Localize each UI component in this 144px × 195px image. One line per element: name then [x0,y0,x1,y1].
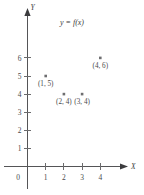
x-axis-arrow-icon [120,163,128,169]
data-point-label: (4, 6) [93,62,109,70]
y-axis-tick-label: 6 [18,54,22,63]
data-point-label: (3, 4) [74,98,90,106]
plot-canvas: Y X 0 123456 1234 (1, 5)(2, 4)(3, 4)(4, … [0,0,144,195]
y-axis-tick-label: 3 [18,108,22,117]
x-axis-tick-label: 4 [98,173,102,182]
coordinate-plane-figure: Y X 0 123456 1234 (1, 5)(2, 4)(3, 4)(4, … [0,0,144,195]
y-axis-tick-label: 4 [18,90,22,99]
origin-label: 0 [16,173,20,182]
x-axis-label: X [130,162,136,171]
data-point-marker [99,57,102,60]
data-point-marker [81,93,84,96]
y-axis-tick-group: 123456 [18,54,31,154]
data-point-label: (1, 5) [38,80,54,88]
y-axis-tick-label: 2 [18,126,22,135]
data-point-group: (1, 5)(2, 4)(3, 4)(4, 6) [38,57,109,107]
data-point-marker [44,75,47,78]
function-title: y = f(x) [59,18,84,27]
x-axis-tick-label: 3 [80,173,84,182]
y-axis-label: Y [31,3,36,12]
data-point-label: (2, 4) [56,98,72,106]
y-axis-tick-label: 5 [18,72,22,81]
data-point-marker [63,93,66,96]
y-axis-tick-label: 1 [18,144,22,153]
x-axis-tick-label: 1 [44,173,48,182]
x-axis-tick-label: 2 [62,173,66,182]
